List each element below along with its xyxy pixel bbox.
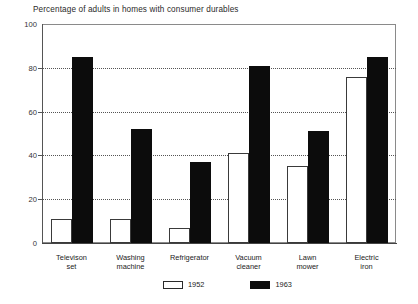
bar-1963-electric-iron (367, 57, 388, 243)
bar-1963-washing-machine (131, 129, 152, 243)
bar-1952-washing-machine (110, 219, 131, 243)
x-axis-line (42, 243, 397, 244)
x-axis-label: Lawn mower (278, 253, 337, 271)
bar-1963-televison-set (72, 57, 93, 243)
legend-item-1952: 1952 (163, 281, 204, 289)
y-axis-tick-label: 80 (29, 63, 37, 72)
y-axis-tick-label: 0 (33, 239, 37, 248)
y-axis-tick-label: 60 (29, 107, 37, 116)
x-axis-label: Vacuum cleaner (219, 253, 278, 271)
legend-swatch-black-icon (250, 281, 270, 289)
x-axis-label: Washing machine (101, 253, 160, 271)
chart-legend: 19521963 (163, 281, 292, 289)
bar-1952-electric-iron (346, 77, 367, 243)
bar-1952-lawn-mower (287, 166, 308, 243)
bar-1952-refrigerator (169, 228, 190, 243)
y-axis-tick-label: 20 (29, 195, 37, 204)
chart-title: Percentage of adults in homes with consu… (33, 5, 239, 14)
x-axis-label: Refrigerator (160, 253, 219, 262)
bar-1952-televison-set (51, 219, 72, 243)
legend-swatch-white-icon (163, 281, 183, 289)
bar-chart: Percentage of adults in homes with consu… (0, 0, 418, 304)
x-axis-label: Electric iron (337, 253, 396, 271)
bar-1963-refrigerator (190, 162, 211, 243)
x-axis-label: Televison set (42, 253, 101, 271)
legend-label: 1952 (188, 281, 204, 288)
y-axis-tick-label: 100 (24, 20, 37, 29)
legend-label: 1963 (275, 281, 291, 288)
bar-1952-vacuum-cleaner (228, 153, 249, 243)
bar-1963-lawn-mower (308, 131, 329, 243)
y-axis-tick-label: 40 (29, 151, 37, 160)
bar-1963-vacuum-cleaner (249, 66, 270, 243)
bars-layer (42, 24, 396, 243)
legend-item-1963: 1963 (250, 281, 291, 289)
